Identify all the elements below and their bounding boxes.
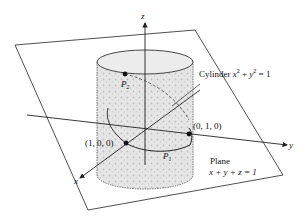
x-axis-label: x: [74, 177, 78, 186]
plane-label: Plane: [210, 157, 230, 166]
diagram-canvas: [0, 0, 307, 220]
y-axis-label: y: [289, 141, 293, 150]
point-100-label: (1, 0, 0): [85, 139, 114, 148]
z-axis-label: z: [141, 12, 145, 21]
cylinder-label: Cylinder x2 + y2 = 1: [199, 68, 270, 79]
point-p1-label: P1: [163, 152, 172, 162]
plane-equation: x + y + z = 1: [209, 168, 257, 177]
point-p2-label: P2: [121, 80, 130, 90]
point-100-dot: [124, 141, 129, 146]
point-010-dot: [187, 132, 192, 137]
point-p2-dot: [123, 72, 128, 77]
point-010-label: (0, 1, 0): [193, 122, 222, 131]
